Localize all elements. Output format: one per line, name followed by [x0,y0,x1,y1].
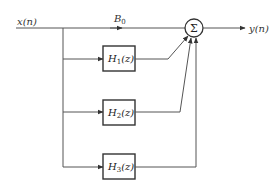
direct-path-gain-label: B0 [113,13,126,26]
block-h2: H2(z) [103,100,135,125]
input-label: x(n) [17,16,37,27]
block-h1: H1(z) [103,46,135,71]
block-h1-output-wire [135,36,188,59]
block-diagram: x(n) B0 H1(z) H2(z) H3(z) Σ y(n) [0,0,276,189]
block-h3-output-wire [135,38,196,167]
output-label: y(n) [248,23,269,34]
block-h2-output-wire [135,38,191,112]
summing-junction: Σ [185,19,203,37]
block-h3: H3(z) [103,154,135,179]
sigma-symbol: Σ [190,22,198,35]
